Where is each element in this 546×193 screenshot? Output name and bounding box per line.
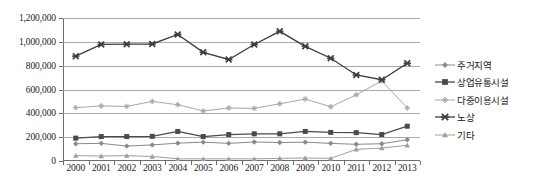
x-axis-tick-label: 2001 — [92, 163, 111, 173]
data-point-diamond-marker — [73, 141, 78, 146]
x-axis-tick-label: 2000 — [66, 163, 85, 173]
data-point-square-marker — [303, 129, 308, 134]
legend-triangle-icon — [434, 129, 456, 141]
plot-area — [63, 18, 420, 161]
data-point-plus-marker — [277, 101, 282, 106]
data-point-plus-marker — [354, 92, 359, 97]
legend-cross-icon — [434, 111, 456, 123]
y-axis-tick-label: 200,000 — [26, 132, 56, 142]
chart-legend: 주거지역상업유통시설다중이용시설노상기타 — [434, 56, 542, 144]
y-axis-tick-label: 1,000,000 — [19, 37, 56, 47]
series-lines — [63, 18, 420, 161]
y-axis-tick-label: 800,000 — [26, 61, 56, 71]
data-point-plus-marker — [175, 102, 180, 107]
legend-label: 노상 — [457, 110, 474, 124]
legend-diamond-icon — [434, 59, 456, 71]
legend-square-icon — [434, 76, 456, 88]
data-point-cross-marker — [98, 42, 105, 48]
data-point-cross-marker — [200, 49, 207, 55]
y-axis-labels: 0200,000400,000600,000800,0001,000,0001,… — [0, 0, 60, 193]
data-point-cross-marker — [302, 43, 309, 49]
data-point-plus-marker — [124, 104, 129, 109]
data-point-square-marker — [379, 132, 384, 137]
data-point-cross-marker — [327, 55, 334, 61]
data-point-diamond-marker — [201, 139, 206, 144]
x-axis-tick-label: 2009 — [296, 163, 315, 173]
x-axis-tick-label: 2002 — [117, 163, 136, 173]
series-1 — [73, 124, 410, 141]
x-axis-tick-label: 2004 — [168, 163, 187, 173]
data-point-square-marker — [252, 131, 257, 136]
data-point-diamond-marker — [150, 142, 155, 147]
x-axis-tick-label: 2007 — [245, 163, 264, 173]
data-point-cross-marker — [149, 41, 156, 47]
data-point-plus-marker — [328, 104, 333, 109]
legend-label: 주거지역 — [457, 58, 491, 72]
data-point-square-marker — [201, 134, 206, 139]
x-axis-labels: 2000200120022003200420052006200720082009… — [63, 163, 420, 183]
data-point-cross-marker — [123, 41, 130, 47]
data-point-diamond-marker — [277, 140, 282, 145]
data-point-cross-marker — [353, 72, 360, 78]
x-axis-tick-label: 2010 — [321, 163, 340, 173]
legend-label: 기타 — [457, 128, 474, 142]
y-axis-tick-label: 1,200,000 — [19, 13, 56, 23]
data-point-diamond-marker — [328, 141, 333, 146]
legend-label: 다중이용시설 — [457, 93, 509, 107]
data-point-square-marker — [99, 134, 104, 139]
data-point-diamond-marker — [442, 62, 448, 68]
legend-item-4[interactable]: 기타 — [434, 126, 542, 144]
x-axis-tick-label: 2005 — [194, 163, 213, 173]
data-point-cross-marker — [251, 42, 258, 48]
x-axis-tick-label: 2011 — [347, 163, 365, 173]
data-point-diamond-marker — [124, 143, 129, 148]
x-axis-tick-label: 2006 — [219, 163, 238, 173]
data-point-square-marker — [277, 131, 282, 136]
data-point-square-marker — [175, 129, 180, 134]
series-3 — [72, 28, 411, 82]
series-0 — [73, 137, 410, 149]
data-point-square-marker — [442, 79, 448, 85]
data-point-diamond-marker — [226, 141, 231, 146]
legend-item-2[interactable]: 다중이용시설 — [434, 91, 542, 109]
x-axis-tick — [420, 161, 421, 165]
data-point-diamond-marker — [354, 142, 359, 147]
x-axis-tick-label: 2012 — [372, 163, 391, 173]
legend-item-1[interactable]: 상업유통시설 — [434, 74, 542, 92]
y-axis-tick-label: 600,000 — [26, 85, 56, 95]
data-point-square-marker — [150, 134, 155, 139]
data-point-diamond-marker — [405, 137, 410, 142]
legend-plus-icon — [434, 94, 456, 106]
series-2 — [73, 78, 410, 113]
data-point-cross-marker — [174, 32, 181, 38]
data-point-square-marker — [73, 136, 78, 141]
data-point-square-marker — [328, 130, 333, 135]
data-point-cross-marker — [441, 114, 449, 120]
x-axis-tick-label: 2013 — [398, 163, 417, 173]
data-point-square-marker — [226, 132, 231, 137]
data-point-plus-marker — [150, 99, 155, 104]
data-point-plus-marker — [252, 106, 257, 111]
legend-label: 상업유통시설 — [457, 75, 509, 89]
x-axis-tick-label: 2008 — [270, 163, 289, 173]
data-point-plus-marker — [442, 97, 448, 103]
y-axis-tick-label: 0 — [51, 156, 56, 166]
data-point-plus-marker — [201, 108, 206, 113]
chart-root: 0200,000400,000600,000800,0001,000,0001,… — [0, 0, 546, 193]
data-point-cross-marker — [225, 57, 232, 63]
data-point-cross-marker — [72, 53, 79, 59]
data-point-diamond-marker — [252, 139, 257, 144]
data-point-square-marker — [405, 124, 410, 129]
legend-item-3[interactable]: 노상 — [434, 109, 542, 127]
data-point-plus-marker — [226, 105, 231, 110]
data-point-diamond-marker — [99, 141, 104, 146]
legend-item-0[interactable]: 주거지역 — [434, 56, 542, 74]
data-point-diamond-marker — [303, 139, 308, 144]
data-point-cross-marker — [404, 60, 411, 66]
data-point-plus-marker — [99, 103, 104, 108]
data-point-cross-marker — [276, 28, 283, 34]
data-point-square-marker — [124, 134, 129, 139]
x-axis-tick-label: 2003 — [143, 163, 162, 173]
data-point-diamond-marker — [175, 140, 180, 145]
y-axis-tick-label: 400,000 — [26, 108, 56, 118]
